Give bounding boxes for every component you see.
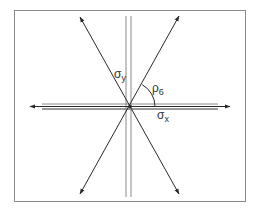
center-point [128,105,132,109]
stress-diagram: σy ρ6 σx [0,0,258,214]
